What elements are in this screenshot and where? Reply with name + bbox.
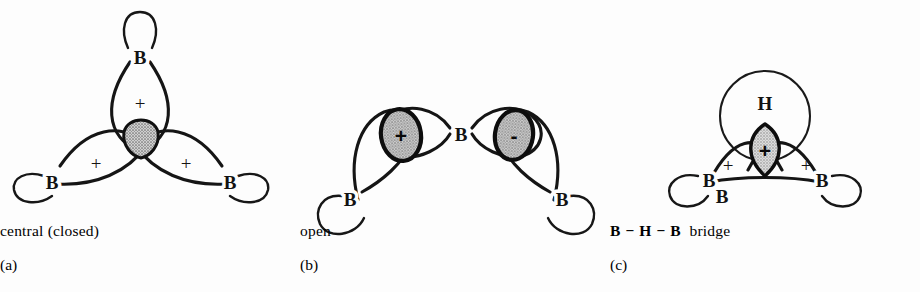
- svg-text:H: H: [758, 93, 773, 114]
- panel-c-caption: B − H − B bridge: [610, 222, 920, 240]
- lobe-sign-right: +: [181, 153, 192, 174]
- panel-c-index: (c): [610, 256, 920, 274]
- panel-a-caption-text: central (closed): [0, 222, 99, 239]
- atom-label-b-right: B B: [224, 172, 237, 193]
- panel-c-caption-word: bridge: [689, 222, 730, 239]
- svg-text:B: B: [556, 189, 569, 210]
- panel-b-open: + - B B B B B B open (b): [300, 0, 620, 292]
- svg-text:B: B: [224, 172, 237, 193]
- lobe-sign-positive: +: [395, 124, 407, 147]
- figure-root: B B B B B B + + + central (closed) (a): [0, 0, 920, 292]
- atom-label-b-right: B B: [816, 170, 829, 191]
- atom-label-b-left-duplicate: B B: [716, 186, 729, 207]
- central-overlap-region: [124, 120, 159, 158]
- orbital-base-arc: [710, 178, 820, 183]
- panel-c-diagram: + + + H H B B B B B B: [610, 0, 920, 292]
- svg-text:B: B: [46, 172, 59, 193]
- lobe-sign-top: +: [135, 93, 146, 114]
- svg-text:B: B: [455, 124, 468, 145]
- lobe-sign-left: +: [723, 155, 734, 176]
- panel-a-index: (a): [0, 256, 310, 274]
- panel-c-bhb-bridge: + + + H H B B B B B B B − H − B: [610, 0, 920, 292]
- panel-a-diagram: B B B B B B + + +: [0, 0, 310, 292]
- atom-label-b-center: B B: [455, 124, 468, 145]
- panel-b-diagram: + - B B B B B B: [300, 0, 620, 292]
- svg-text:B: B: [716, 186, 729, 207]
- panel-c-index-text: (c): [610, 256, 627, 273]
- panel-b-caption-text: open: [300, 222, 331, 239]
- lobe-sign-negative: -: [511, 124, 518, 147]
- atom-label-b-right: B B: [556, 189, 569, 210]
- panel-b-index-text: (b): [300, 256, 318, 273]
- atom-label-b-left: B B: [344, 189, 357, 210]
- orbital-back-lobe-top: [124, 12, 156, 48]
- atom-label-b-left: B B: [703, 170, 716, 191]
- panel-a-index-text: (a): [0, 256, 17, 273]
- atom-label-h: H H: [758, 93, 773, 114]
- panel-b-index: (b): [300, 256, 620, 274]
- panel-a-central-closed: B B B B B B + + + central (closed) (a): [0, 0, 310, 292]
- atom-label-b-top: B B: [134, 47, 147, 68]
- atom-label-b-left: B B: [46, 172, 59, 193]
- lobe-sign-left: +: [91, 153, 102, 174]
- svg-text:B: B: [134, 47, 147, 68]
- panel-a-caption: central (closed): [0, 222, 310, 240]
- svg-text:B: B: [703, 170, 716, 191]
- panel-c-caption-formula: B − H − B: [610, 222, 681, 239]
- svg-text:B: B: [816, 170, 829, 191]
- svg-text:B: B: [344, 189, 357, 210]
- overlap-sign: +: [759, 139, 771, 162]
- lobe-sign-right: +: [801, 155, 812, 176]
- panel-b-caption: open: [300, 222, 620, 240]
